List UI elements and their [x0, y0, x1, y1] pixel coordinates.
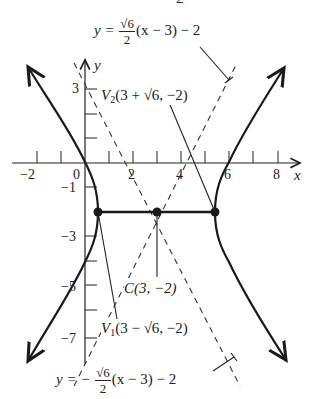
right-branch-upper	[215, 68, 284, 212]
vertex-2-label: V2(3 + √6, −2)	[101, 88, 188, 105]
graph-canvas	[0, 0, 320, 399]
equation-fraction: √6 2	[119, 17, 135, 46]
x-tick-label: 4	[176, 168, 183, 182]
right-branch-lower	[215, 212, 286, 360]
center-label-text: C(3, −2)	[124, 280, 177, 296]
equation-rest: (x − 3) − 2	[112, 371, 176, 387]
vertex-1-label: V1(3 − √6, −2)	[101, 321, 188, 338]
upper-asymptote-equation: y = √6 2 (x − 3) − 2	[94, 17, 200, 46]
y-tick-label: −1	[61, 181, 76, 195]
fraction-denominator: 2	[95, 381, 111, 395]
vertex-2-coords: (3 + √6, −2)	[115, 87, 188, 103]
x-tick-label: 8	[273, 168, 280, 182]
vertex-1-name: V	[101, 320, 110, 336]
center-label: C(3, −2)	[124, 281, 177, 296]
fraction-denominator: 2	[119, 32, 135, 46]
vertex-2-name: V	[101, 87, 110, 103]
equation-rest: (x − 3) − 2	[136, 22, 200, 38]
x-axis	[12, 151, 300, 163]
x-axis-label: x	[294, 168, 301, 183]
y-tick-label: 3	[72, 82, 79, 96]
equation-lhs: y = −	[56, 371, 90, 387]
x-axis-ticks	[37, 151, 278, 163]
leader-vertex-1	[98, 212, 117, 319]
equation-lhs: y =	[94, 22, 115, 38]
fraction-numerator: √6	[95, 366, 111, 381]
y-tick-label: −7	[61, 332, 76, 346]
fraction-numerator: √6	[119, 17, 135, 32]
cut-off-text: 2	[176, 0, 184, 6]
x-tick-label: 2	[128, 168, 135, 182]
y-tick-label: −3	[61, 230, 76, 244]
vertex-1-coords: (3 − √6, −2)	[115, 320, 188, 336]
leader-vertex-2	[168, 100, 215, 212]
y-tick-label: −5	[61, 280, 76, 294]
leader-lower-asymptote	[213, 353, 237, 371]
hyperbola-figure: 2 y = √6 2 (x − 3) − 2 y x −2 0 2 4 6 8 …	[0, 0, 320, 399]
x-tick-label: 6	[224, 168, 231, 182]
leader-upper-asymptote	[200, 47, 233, 83]
y-axis-label: y	[94, 58, 101, 73]
x-tick-label: −2	[20, 168, 35, 182]
lower-asymptote-equation: y = − √6 2 (x − 3) − 2	[56, 366, 176, 395]
equation-fraction: √6 2	[95, 366, 111, 395]
